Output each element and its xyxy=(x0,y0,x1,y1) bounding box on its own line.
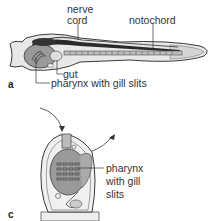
siphon xyxy=(62,134,71,148)
label-with-gill-c: with gill xyxy=(106,176,140,187)
label-pharynx-gill-slits-a: pharynx with gill slits xyxy=(51,78,147,89)
label-notochord: notochord xyxy=(129,15,176,26)
lancelet-illustration xyxy=(10,23,207,83)
tunicate-base xyxy=(41,212,99,221)
panel-letter-c: c xyxy=(8,209,14,220)
gut-shape xyxy=(50,51,62,61)
label-pharynx-c: pharynx xyxy=(106,163,143,174)
label-cord: cord xyxy=(67,15,87,26)
label-slits-c: slits xyxy=(106,189,124,200)
panel-letter-a: a xyxy=(8,79,14,90)
segmented-band xyxy=(64,51,182,55)
dorsal-organ xyxy=(32,38,56,46)
tunicate-illustration xyxy=(40,108,115,221)
